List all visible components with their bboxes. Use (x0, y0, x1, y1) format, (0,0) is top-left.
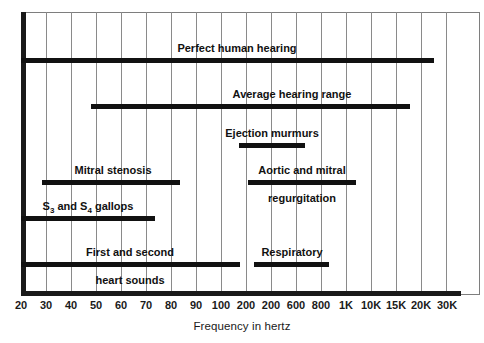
x-tick-label: 20 (15, 299, 27, 312)
s3-s4-conjunction: and (54, 200, 80, 212)
bar-ejection-murmurs (239, 143, 305, 148)
x-tick-label: 100 (212, 299, 230, 312)
x-tick-label: 200 (262, 299, 280, 312)
x-tick-label: 50 (90, 299, 102, 312)
bar-label-s3-s4-gallops: S3 and S4 gallops (43, 200, 134, 213)
bar-label-aortic-and-mitral: Aortic and mitral (258, 164, 345, 177)
gallops-token: gallops (92, 200, 134, 212)
bar-aortic-and-mitral-regurgitation (248, 180, 356, 185)
x-axis-title: Frequency in hertz (0, 320, 484, 332)
x-tick-label: 10K (361, 299, 381, 312)
x-tick-label: 600 (287, 299, 305, 312)
x-tick-label: 30 (40, 299, 52, 312)
x-tick-label: 15K (386, 299, 406, 312)
gridline (46, 12, 47, 295)
x-tick-label: 60 (115, 299, 127, 312)
s4-token: S4 (80, 200, 92, 212)
x-tick-label: 80 (165, 299, 177, 312)
bar-first-and-second-heart-sounds (21, 262, 240, 267)
gridline (421, 12, 422, 295)
bar-label-heart-sounds: heart sounds (95, 274, 164, 287)
bar-label-ejection-murmurs: Ejection murmurs (225, 127, 319, 140)
gridline (346, 12, 347, 295)
gridline (371, 12, 372, 295)
bar-perfect-human-hearing (21, 58, 434, 63)
bar-label-mitral-stenosis: Mitral stenosis (74, 164, 151, 177)
bar-s3-s4-gallops (21, 216, 155, 221)
bar-respiratory (254, 262, 329, 267)
x-tick-label: 1K (339, 299, 353, 312)
gridline (396, 12, 397, 295)
bar-label-respiratory: Respiratory (261, 246, 322, 259)
x-axis-line (21, 291, 461, 296)
x-tick-label: 200 (237, 299, 255, 312)
frequency-range-chart: Perfect human hearing Average hearing ra… (0, 0, 484, 343)
x-tick-label: 40 (65, 299, 77, 312)
x-tick-label: 90 (190, 299, 202, 312)
x-tick-label: 30K (437, 299, 457, 312)
x-tick-label: 800 (312, 299, 330, 312)
bar-average-hearing-range (91, 104, 410, 109)
gridline (446, 12, 447, 295)
bar-mitral-stenosis (42, 180, 180, 185)
bar-label-first-and-second: First and second (86, 246, 174, 259)
gridline (71, 12, 72, 295)
s3-token: S3 (43, 200, 55, 212)
bar-label-average-hearing-range: Average hearing range (233, 88, 352, 101)
bar-label-perfect-human-hearing: Perfect human hearing (177, 42, 296, 55)
bar-label-regurgitation: regurgitation (268, 192, 336, 205)
x-tick-label: 20K (411, 299, 431, 312)
y-axis-line (21, 12, 26, 296)
x-tick-label: 70 (140, 299, 152, 312)
